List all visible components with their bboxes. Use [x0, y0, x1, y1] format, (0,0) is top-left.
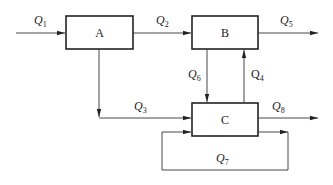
flow-q5: Q5: [258, 13, 318, 33]
flow-q7: Q7: [162, 132, 288, 170]
node-a-label: A: [95, 26, 104, 40]
flow-q4-label: Q4: [251, 67, 264, 83]
flow-q3: Q3: [99, 49, 191, 118]
flow-q5-label: Q5: [280, 13, 293, 29]
flow-q4: Q4: [244, 50, 264, 103]
node-a: A: [66, 16, 133, 49]
node-b: B: [192, 16, 258, 49]
flow-diagram: A B C Q1 Q2 Q5 Q6 Q4 Q3 Q8: [0, 0, 333, 185]
flow-q1-label: Q1: [34, 13, 47, 29]
flow-q2: Q2: [133, 13, 191, 33]
flow-q8: Q8: [258, 99, 318, 118]
node-c-label: C: [221, 113, 229, 127]
node-b-label: B: [221, 26, 229, 40]
flow-q6-label: Q6: [188, 67, 201, 83]
node-c: C: [192, 103, 258, 136]
flow-q7-label: Q7: [216, 151, 229, 167]
flow-q1: Q1: [16, 13, 65, 33]
flow-q2-label: Q2: [156, 13, 169, 29]
flow-q6: Q6: [188, 49, 207, 102]
flow-q3-label: Q3: [134, 99, 147, 115]
flow-q8-label: Q8: [272, 99, 285, 115]
